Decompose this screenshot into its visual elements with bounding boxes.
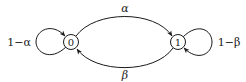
self-loop-label-1: 1−β — [218, 36, 241, 49]
edge-1-to-0 — [77, 48, 173, 68]
state-node-0-label: 0 — [68, 37, 74, 48]
self-loop-0 — [36, 29, 66, 55]
state-node-1-label: 1 — [175, 37, 181, 48]
state-node-0: 0 — [64, 35, 79, 50]
self-loop-label-0: 1−α — [7, 36, 31, 49]
state-node-1: 1 — [171, 35, 186, 50]
edge-label-alpha: α — [121, 2, 129, 15]
edge-0-to-1 — [76, 17, 172, 37]
edge-label-beta: β — [121, 69, 128, 82]
self-loop-1 — [183, 29, 212, 56]
markov-chain-diagram: α β 1−α 1−β 0 1 — [0, 0, 246, 82]
